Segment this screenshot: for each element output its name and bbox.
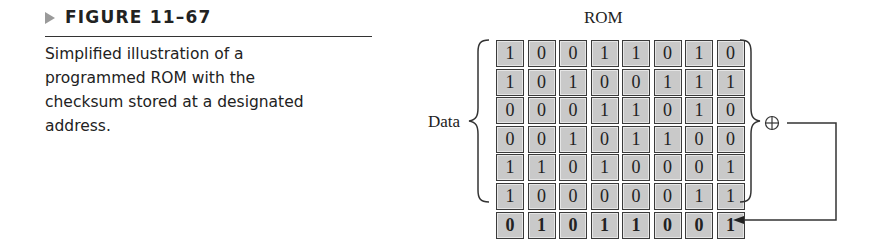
feedback-line	[740, 123, 836, 220]
diagram-lines	[0, 0, 879, 243]
arrowhead-icon	[733, 216, 744, 224]
right-brace-icon	[740, 40, 760, 202]
xor-icon	[766, 117, 779, 130]
left-brace-icon	[469, 40, 489, 202]
